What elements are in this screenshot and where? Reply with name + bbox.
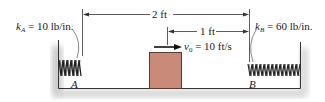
spring-b-icon: [248, 64, 300, 76]
k-value: = 60 lb/in.: [267, 20, 313, 32]
spring-a-stiffness-label: kA = 10 lb/in.: [16, 21, 74, 34]
dimension-2ft-label: 2 ft: [152, 9, 167, 20]
spring-a-icon: [59, 60, 81, 76]
k-subscript: A: [21, 26, 25, 34]
spring-b-stiffness-label: kB = 60 lb/in.: [255, 21, 313, 34]
point-a-label: A: [71, 79, 78, 90]
k-subscript: B: [260, 26, 264, 34]
v-value: = 10 ft/s: [195, 40, 232, 52]
velocity-arrow-icon: [154, 44, 182, 50]
k-value: = 10 lb/in.: [28, 20, 74, 32]
leader-b: [251, 30, 256, 62]
dimension-1ft-label: 1 ft: [200, 26, 215, 37]
point-b-label: B: [249, 79, 256, 90]
leader-a: [73, 30, 79, 58]
block: [150, 53, 182, 89]
velocity-label: v0 = 10 ft/s: [184, 41, 232, 54]
v-subscript: 0: [189, 46, 193, 54]
spring-block-diagram: kA = 10 lb/in. A kB = 60 lb/in. B 2 ft 1…: [0, 0, 325, 102]
